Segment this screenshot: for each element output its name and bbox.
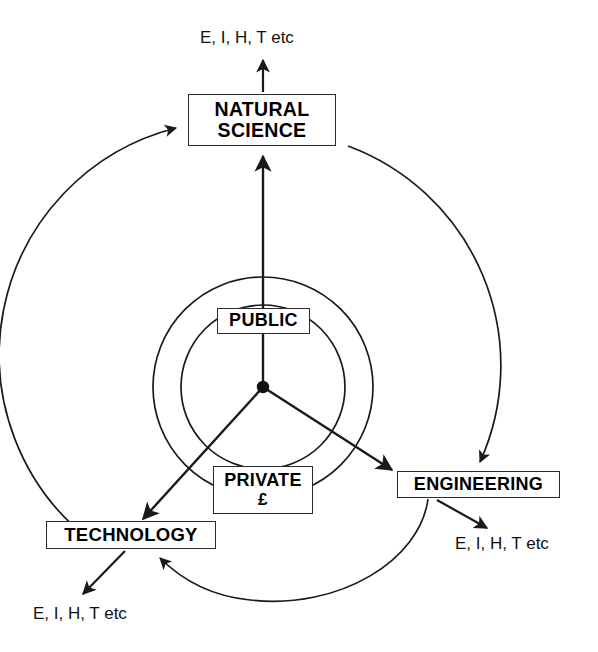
outcome-label-natural-science: E, I, H, T etc: [200, 28, 294, 48]
node-private-currency-symbol: £: [258, 491, 268, 509]
node-natural-science[interactable]: NATURAL SCIENCE: [188, 94, 336, 146]
node-engineering[interactable]: ENGINEERING: [397, 471, 560, 498]
arrow-engineering-to-outcome: [437, 500, 487, 528]
node-technology[interactable]: TECHNOLOGY: [46, 521, 216, 549]
arc-technology-to-natural-science: [0, 128, 176, 543]
outcome-label-engineering: E, I, H, T etc: [455, 534, 549, 554]
node-private-label: PRIVATE: [224, 471, 301, 490]
arc-engineering-to-technology: [160, 499, 428, 601]
node-public[interactable]: PUBLIC: [217, 308, 310, 334]
arrow-technology-to-outcome: [83, 551, 125, 594]
diagram-canvas: NATURAL SCIENCE PUBLIC PRIVATE £ ENGINEE…: [0, 0, 598, 652]
outcome-label-technology: E, I, H, T etc: [33, 604, 127, 624]
hub-origin[interactable]: [252, 376, 274, 398]
arc-natural-science-to-engineering: [348, 146, 501, 462]
node-private[interactable]: PRIVATE £: [213, 466, 313, 514]
